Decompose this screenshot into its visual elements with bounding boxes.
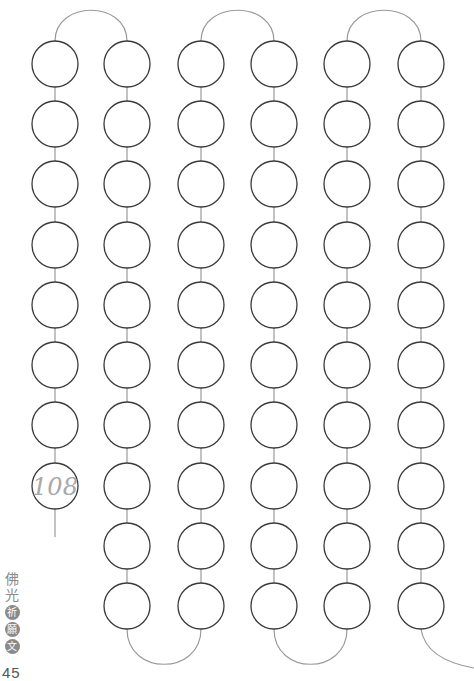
- bead: [104, 222, 150, 268]
- bead: [32, 282, 78, 328]
- title-char: 佛: [5, 571, 19, 587]
- bead: [324, 402, 370, 448]
- bead: [32, 402, 78, 448]
- title-char-circled: 文: [5, 639, 20, 654]
- bead: [398, 402, 444, 448]
- bead: [324, 342, 370, 388]
- title-char-circled: 祈: [5, 605, 20, 620]
- bead: [251, 161, 297, 207]
- bead: [104, 402, 150, 448]
- string-tail: [421, 629, 474, 668]
- bead-count-label: 108: [32, 473, 78, 501]
- bottom-arch: [274, 629, 347, 664]
- bead: [178, 342, 224, 388]
- bead: [398, 41, 444, 87]
- bead: [104, 583, 150, 629]
- bead: [324, 583, 370, 629]
- bead: [104, 41, 150, 87]
- bead: [178, 222, 224, 268]
- bead-circles: [32, 41, 444, 629]
- bead: [104, 101, 150, 147]
- bead: [104, 161, 150, 207]
- bead: [324, 463, 370, 509]
- bottom-arch: [127, 629, 201, 664]
- title-char: 光: [5, 587, 19, 603]
- bead: [251, 282, 297, 328]
- bead: [178, 583, 224, 629]
- bead: [398, 342, 444, 388]
- bead: [324, 282, 370, 328]
- top-arch: [201, 10, 274, 41]
- bead: [32, 41, 78, 87]
- bead: [32, 342, 78, 388]
- bead: [251, 402, 297, 448]
- bead: [178, 101, 224, 147]
- bead: [178, 161, 224, 207]
- bead: [178, 41, 224, 87]
- bead: [178, 402, 224, 448]
- bead: [251, 222, 297, 268]
- bead: [398, 282, 444, 328]
- vertical-title: 佛 光 祈 願 文: [4, 571, 20, 654]
- bead: [251, 463, 297, 509]
- top-arch: [55, 10, 127, 41]
- bead: [32, 161, 78, 207]
- bead: [398, 463, 444, 509]
- bead: [398, 161, 444, 207]
- bead: [32, 101, 78, 147]
- bead: [398, 101, 444, 147]
- bead: [251, 101, 297, 147]
- bead: [251, 583, 297, 629]
- title-char-circled: 願: [5, 622, 20, 637]
- bead: [324, 523, 370, 569]
- bead: [251, 523, 297, 569]
- bead: [178, 463, 224, 509]
- bead: [104, 342, 150, 388]
- bead: [32, 222, 78, 268]
- bead: [398, 583, 444, 629]
- bead: [324, 101, 370, 147]
- bead: [324, 222, 370, 268]
- bead: [178, 523, 224, 569]
- bead: [178, 282, 224, 328]
- top-arch: [347, 10, 421, 41]
- bead: [251, 342, 297, 388]
- bead: [104, 523, 150, 569]
- page-number: 45: [2, 664, 21, 681]
- bead: [104, 463, 150, 509]
- bead: [398, 523, 444, 569]
- bead: [324, 41, 370, 87]
- bead: [398, 222, 444, 268]
- bead: [104, 282, 150, 328]
- bead: [324, 161, 370, 207]
- bead: [251, 41, 297, 87]
